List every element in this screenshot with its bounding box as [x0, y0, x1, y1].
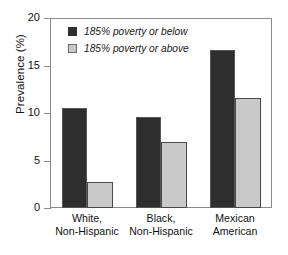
x-axis-labels: White,Non-HispanicBlack,Non-HispanicMexi… [50, 212, 272, 252]
x-axis-category-label: MexicanAmerican [198, 212, 272, 237]
bar [161, 142, 187, 209]
y-tick-label: 15 [0, 59, 40, 71]
chart-legend: 185% poverty or below 185% poverty or ab… [68, 24, 189, 58]
bar [87, 182, 113, 208]
legend-label: 185% poverty or above [84, 43, 189, 54]
y-tick-label: 5 [0, 154, 40, 166]
x-axis-category-label: Black,Non-Hispanic [124, 212, 198, 237]
x-axis-category-label: White,Non-Hispanic [50, 212, 124, 237]
legend-label: 185% poverty or below [84, 26, 188, 37]
y-tick-label: 20 [0, 11, 40, 23]
bar-chart: Prevalence (%) 05101520 185% poverty or … [0, 0, 288, 255]
y-tick-label: 10 [0, 106, 40, 118]
legend-item: 185% poverty or below [68, 24, 189, 38]
legend-swatch-dark-icon [68, 27, 77, 36]
y-tick-label: 0 [0, 201, 40, 213]
bar [210, 50, 236, 208]
legend-item: 185% poverty or above [68, 41, 189, 55]
bar [62, 108, 88, 208]
bar [235, 98, 261, 208]
legend-swatch-light-icon [68, 44, 77, 53]
bar [136, 117, 162, 208]
y-tick-mark [44, 208, 51, 209]
